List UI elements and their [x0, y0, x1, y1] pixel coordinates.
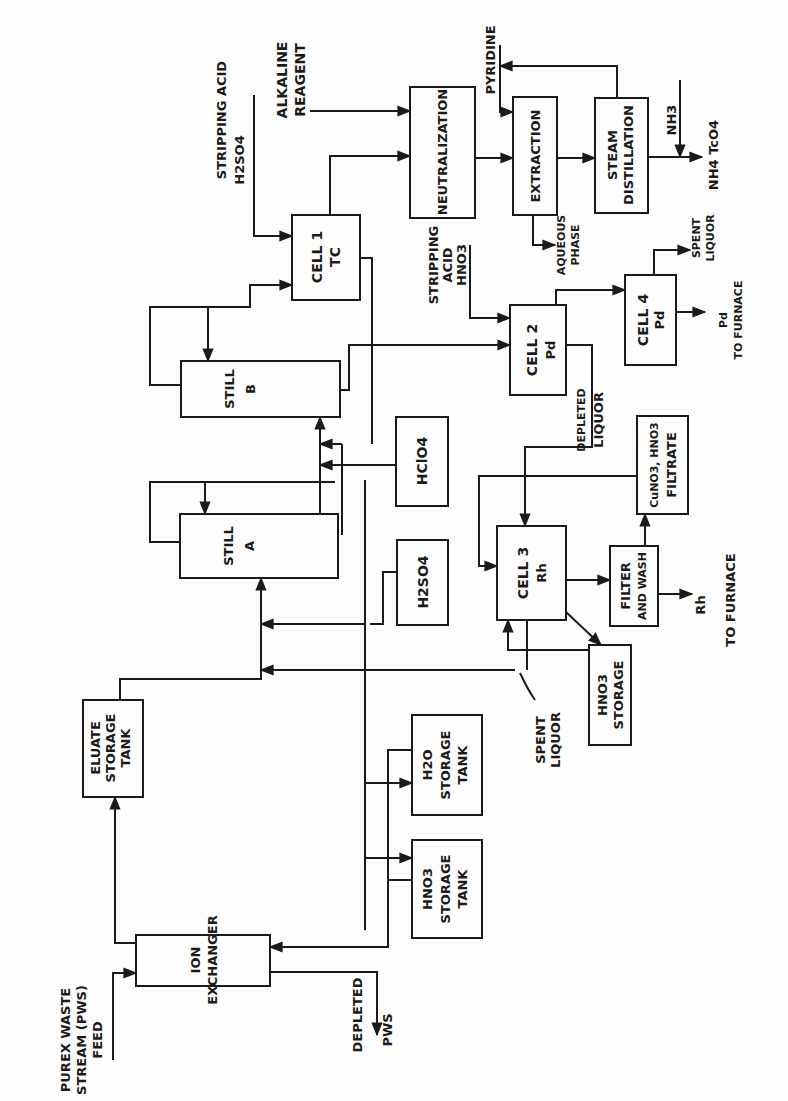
cell-2-pd-box: CELL 2 Pd: [510, 305, 566, 395]
ion-exchanger-label: ION: [188, 947, 203, 974]
hclo4-box: HClO4: [396, 417, 448, 506]
svg-text:PHASE: PHASE: [569, 224, 582, 265]
steam-distillation-label-1: STEAM: [605, 130, 620, 180]
hno3-storage-tank-box: HNO3 STORAGE TANK: [412, 840, 482, 938]
extraction-box: EXTRACTION: [513, 97, 557, 215]
h2o-storage-tank-box: H2O STORAGE TANK: [412, 715, 482, 815]
filtrates-label-2: FILTRATE: [664, 432, 679, 498]
cell-2-label-1: CELL 2: [524, 324, 540, 376]
svg-text:SPENT: SPENT: [533, 716, 548, 764]
svg-text:SPENT: SPENT: [690, 217, 703, 258]
label-spent-liquor-rh: SPENT LIQUOR: [533, 712, 563, 768]
svg-text:Pd: Pd: [717, 312, 730, 328]
hno3-storage-label-1: HNO3: [595, 674, 610, 716]
cell-4-pd-box: CELL 4 Pd: [625, 275, 676, 365]
filter-and-wash-box: FILTER AND WASH: [610, 546, 658, 626]
svg-text:Rh: Rh: [693, 595, 708, 614]
label-depleted-liquor: DEPLETED LIQUOR: [575, 388, 606, 451]
h2o-tank-label-1: H2O: [420, 750, 435, 781]
svg-text:PUREX WASTE: PUREX WASTE: [58, 988, 73, 1092]
filter-wash-label-1: FILTER: [618, 562, 633, 610]
neutralization-box: NEUTRALIZATION: [410, 87, 475, 218]
label-pd-to-furnace: Pd TO FURNACE: [717, 281, 745, 360]
label-aqueous-phase: AQUEOUS PHASE: [555, 215, 582, 276]
cell-1-tc-box: CELL 1 TC: [292, 215, 360, 300]
eluate-tank-label-3: TANK: [118, 728, 133, 768]
hno3-tank-label-2: STORAGE: [438, 855, 453, 924]
label-nh4tco4: NH4 TcO4: [706, 120, 721, 190]
cell-1-label-1: CELL 1: [309, 231, 325, 283]
svg-text:LIQUOR: LIQUOR: [548, 712, 563, 768]
label-nh3: NH3: [664, 105, 679, 136]
hno3-storage-label-2: STORAGE: [611, 661, 626, 730]
steam-distillation-box: STEAM DISTILLATION: [595, 98, 648, 213]
eluate-tank-label-2: STORAGE: [103, 714, 118, 783]
hno3-storage-box: HNO3 STORAGE: [589, 645, 631, 745]
cell-1-label-2: TC: [327, 247, 343, 267]
label-rh-to-furnace: Rh TO FURNACE: [693, 553, 738, 646]
label-stripping-acid-hno3: STRIPPING ACID HNO3: [426, 226, 469, 305]
cell-4-label-2: Pd: [652, 311, 667, 330]
eluate-tank-label-1: ELUATE: [88, 721, 103, 775]
h2so4-label: H2SO4: [415, 555, 431, 608]
hno3-tank-label-3: TANK: [455, 869, 470, 909]
still-a-box: STILL A: [180, 514, 338, 578]
svg-text:DEPLETED: DEPLETED: [575, 388, 588, 451]
svg-text:STREAM (PWS): STREAM (PWS): [74, 985, 89, 1095]
svg-text:AQUEOUS: AQUEOUS: [555, 215, 568, 276]
ion-exchanger-label-2: EXCHANGER: [205, 915, 220, 1004]
h2o-tank-label-3: TANK: [455, 745, 470, 785]
extraction-label: EXTRACTION: [528, 109, 543, 202]
label-spent-liquor-pd: SPENT LIQUOR: [690, 214, 717, 262]
neutralization-label: NEUTRALIZATION: [435, 89, 450, 216]
still-b-label-1: STILL: [222, 369, 237, 409]
svg-text:PWS: PWS: [380, 1013, 395, 1046]
svg-text:REAGENT: REAGENT: [292, 43, 308, 117]
svg-text:LIQUOR: LIQUOR: [704, 214, 717, 262]
svg-text:PYRIDINE: PYRIDINE: [483, 25, 498, 94]
ion-exchanger-box: ION EXCHANGER: [136, 915, 270, 1004]
label-depleted-pws: DEPLETED PWS: [350, 977, 395, 1052]
label-purex-feed: PUREX WASTE STREAM (PWS) FEED: [58, 985, 105, 1095]
flow-diagram: ION EXCHANGER ELUATE STORAGE TANK STILL …: [0, 0, 788, 1101]
still-a-label-1: STILL: [221, 526, 236, 566]
svg-text:LIQUOR: LIQUOR: [591, 392, 606, 448]
h2so4-box: H2SO4: [397, 540, 448, 625]
label-pyridine: PYRIDINE: [483, 25, 498, 94]
svg-text:NH4 TcO4: NH4 TcO4: [706, 120, 721, 190]
svg-text:ACID: ACID: [440, 247, 455, 282]
still-a-label-2: A: [242, 541, 257, 551]
cell-3-label-2: Rh: [534, 563, 549, 582]
svg-text:FEED: FEED: [90, 1021, 105, 1059]
label-alkaline-reagent: ALKALINE REAGENT: [274, 42, 308, 119]
filter-wash-label-2: AND WASH: [636, 552, 649, 620]
svg-text:NH3: NH3: [664, 105, 679, 136]
svg-text:STRIPPING: STRIPPING: [426, 226, 441, 305]
still-b-box: STILL B: [181, 361, 340, 417]
label-stripping-acid-h2so4: STRIPPING ACID H2SO4: [214, 61, 247, 185]
hclo4-label: HClO4: [414, 437, 430, 486]
cell-3-label-1: CELL 3: [515, 547, 531, 599]
svg-text:TO FURNACE: TO FURNACE: [732, 281, 745, 360]
still-b-label-2: B: [243, 384, 258, 394]
filtrates-label-1: CuNO3, HNO3: [648, 422, 661, 508]
eluate-storage-tank-box: ELUATE STORAGE TANK: [83, 700, 143, 797]
svg-text:HNO3: HNO3: [454, 244, 469, 286]
cell-4-label-1: CELL 4: [635, 294, 651, 347]
cell-2-label-2: Pd: [543, 341, 558, 360]
filtrates-box: CuNO3, HNO3 FILTRATE: [637, 416, 688, 514]
hno3-tank-label-1: HNO3: [420, 868, 435, 910]
svg-text:DEPLETED: DEPLETED: [350, 977, 365, 1052]
svg-text:STRIPPING ACID: STRIPPING ACID: [214, 61, 229, 179]
h2o-tank-label-2: STORAGE: [438, 731, 453, 800]
steam-distillation-label-2: DISTILLATION: [621, 105, 636, 205]
cell-3-rh-box: CELL 3 Rh: [497, 526, 566, 620]
svg-text:TO FURNACE: TO FURNACE: [723, 553, 738, 646]
svg-text:ALKALINE: ALKALINE: [274, 42, 290, 119]
svg-text:H2SO4: H2SO4: [232, 135, 247, 184]
